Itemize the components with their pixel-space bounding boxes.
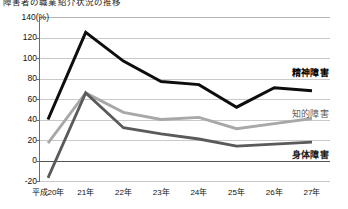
legend-label-intellectual: 知的障害 bbox=[292, 110, 329, 119]
chart-root: 障害者の職業紹介状況の推移 140(%)120100806040200-20 平… bbox=[0, 0, 348, 209]
series-line-mental bbox=[48, 32, 312, 119]
series-lines bbox=[0, 0, 348, 209]
series-line-physical bbox=[48, 93, 312, 178]
legend-label-physical: 身体障害 bbox=[292, 151, 329, 160]
legend-label-mental: 精神障害 bbox=[292, 69, 329, 78]
